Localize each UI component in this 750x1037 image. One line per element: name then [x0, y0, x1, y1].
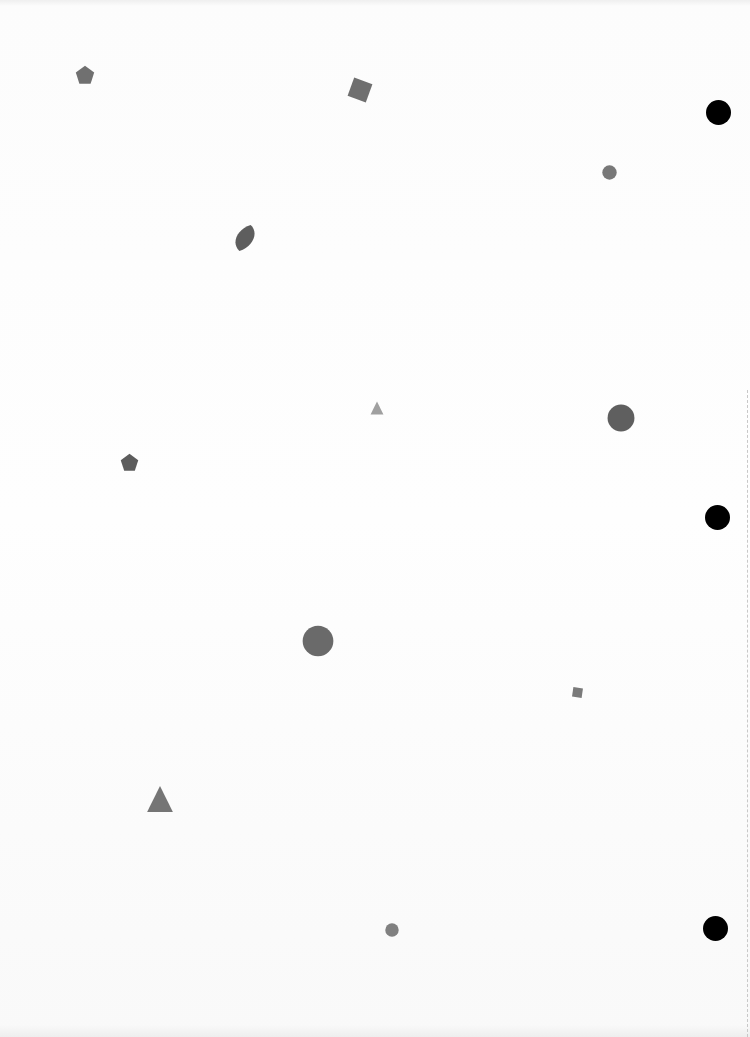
circle-shape [385, 923, 399, 937]
scan-edge-bottom [0, 1025, 750, 1037]
pentagon-shape [75, 65, 95, 85]
circle-shape [302, 625, 334, 657]
triangle-shape [370, 401, 384, 415]
punch-hole [703, 916, 728, 941]
square-shape [571, 686, 583, 698]
triangle-shape [146, 785, 174, 813]
leaf-shape [231, 224, 259, 252]
punch-hole [706, 100, 731, 125]
circle-shape [602, 165, 617, 180]
pentagon-shape [120, 453, 139, 472]
perforation-edge [747, 390, 748, 1037]
circle-shape [607, 404, 635, 432]
scan-edge-top [0, 0, 750, 6]
punch-hole [705, 505, 730, 530]
square-shape [346, 76, 374, 104]
scanned-page [0, 0, 750, 1037]
